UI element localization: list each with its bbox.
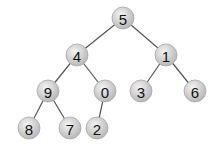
node-label: 2 [93, 121, 101, 138]
node-label: 0 [101, 84, 109, 101]
tree-node-2: 2 [86, 117, 108, 139]
tree-node-4: 4 [66, 44, 88, 66]
node-label: 9 [44, 84, 52, 101]
tree-diagram: 5419036872 [0, 0, 220, 149]
tree-node-0: 0 [94, 80, 116, 102]
tree-node-7: 7 [59, 117, 81, 139]
tree-node-5: 5 [112, 7, 134, 29]
node-label: 5 [119, 11, 127, 28]
tree-edges [29, 18, 195, 128]
node-label: 1 [162, 48, 170, 65]
tree-node-1: 1 [155, 44, 177, 66]
tree-node-8: 8 [18, 117, 40, 139]
node-label: 6 [191, 84, 199, 101]
node-label: 7 [66, 121, 74, 138]
node-label: 3 [137, 84, 145, 101]
tree-node-6: 6 [184, 80, 206, 102]
tree-node-9: 9 [37, 80, 59, 102]
node-label: 8 [25, 121, 33, 138]
tree-node-3: 3 [130, 80, 152, 102]
node-label: 4 [73, 48, 81, 65]
